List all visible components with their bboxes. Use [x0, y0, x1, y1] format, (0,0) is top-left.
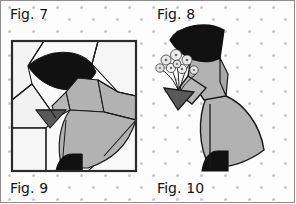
figure-page: Fig. 7 Fig. 9	[0, 0, 296, 204]
page-border	[0, 0, 295, 203]
